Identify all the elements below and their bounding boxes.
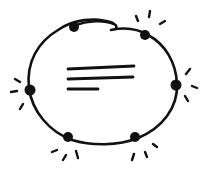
node-bottom-left[interactable] [63,132,73,142]
node-right[interactable] [171,80,182,91]
ring-arc-left [29,19,178,144]
node-left[interactable] [25,85,36,96]
text-placeholder-icon [68,66,134,89]
glow-icon-bottom-right [132,144,157,160]
node-top-right[interactable] [140,30,150,40]
glow-icon-bottom-left [52,150,78,160]
glow-icon-left [11,79,23,109]
node-top-left[interactable] [69,22,79,32]
ring-diagram [0,0,209,171]
glow-icon-top-right [136,11,165,24]
glow-icon-right [185,69,197,101]
text-line-1 [68,66,134,69]
node-bottom-right[interactable] [130,132,140,142]
text-line-2 [68,77,133,79]
ring-gap-flick [74,21,116,29]
